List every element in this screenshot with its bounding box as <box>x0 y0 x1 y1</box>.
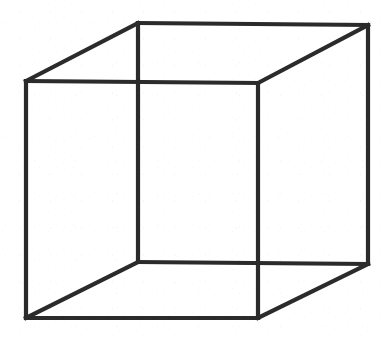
necker-cube-figure <box>0 0 391 341</box>
edge-link-bottom-right <box>258 264 368 318</box>
edge-link-top-left <box>26 23 138 81</box>
cube-connecting-edges <box>26 23 368 318</box>
edge-link-top-right <box>258 25 368 83</box>
cube-back-face <box>138 23 368 264</box>
necker-cube-svg <box>0 0 391 341</box>
edge-front-top <box>26 81 258 83</box>
cube-front-face <box>26 81 258 318</box>
edge-link-bottom-left <box>26 262 138 318</box>
edge-back-top <box>138 23 368 25</box>
edge-back-bottom <box>138 262 368 264</box>
